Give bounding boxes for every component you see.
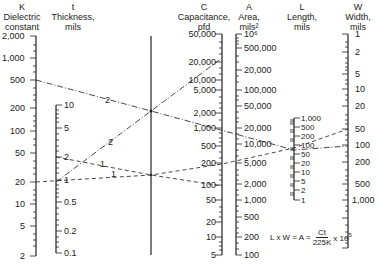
c-tick: 1,000 <box>193 124 216 133</box>
c-tick: 10 <box>206 233 216 242</box>
a-tick: 20,000 <box>244 124 272 133</box>
a-tick: 2,000 <box>244 180 267 189</box>
l-tick: 500 <box>301 123 314 132</box>
w-tick: 1,000 <box>352 196 375 205</box>
formula-denominator: 225K <box>313 238 332 247</box>
k-tick: 5 <box>20 222 25 231</box>
line-label-2b: 2 <box>108 138 113 147</box>
k-tick: 200 <box>10 104 25 113</box>
a-tick: 500,000 <box>244 44 277 53</box>
formula-exponent: 5 <box>348 232 351 238</box>
a-tick: 1,000 <box>244 196 267 205</box>
a-tick: 10⁶ <box>244 30 258 39</box>
l-tick: 1 <box>301 196 305 205</box>
t-tick: 2 <box>64 153 69 162</box>
w-tick: 5 <box>355 70 360 79</box>
k-tick: 10 <box>15 200 25 209</box>
line-label-1b: 1 <box>111 170 116 179</box>
formula-tail: x 105 <box>333 232 351 243</box>
k-tick: 2,000 <box>2 32 25 41</box>
w-tick: 500 <box>355 180 370 189</box>
l-tick: 2 <box>301 186 305 195</box>
line-label-1a: 1 <box>100 160 105 169</box>
k-tick: 500 <box>10 76 25 85</box>
t-tick: 1 <box>64 176 69 185</box>
t-tick: 0.5 <box>64 198 77 207</box>
l-tick: 200 <box>301 132 314 141</box>
w-tick: 50 <box>355 125 365 134</box>
w-tick: 1 <box>355 30 360 39</box>
t-tick: 0.2 <box>64 227 77 236</box>
line-label-2a: 2 <box>105 96 110 105</box>
w-tick: 2 <box>355 48 360 57</box>
k-tick: 1,000 <box>2 54 25 63</box>
c-tick: 5,000 <box>193 86 216 95</box>
t-tick: 10 <box>64 101 74 110</box>
a-tick: 5,000 <box>244 159 267 168</box>
l-tick: 10 <box>301 168 310 177</box>
a-tick: 10,000 <box>244 140 272 149</box>
c-tick: 50,000 <box>188 30 216 39</box>
c-tick: 200 <box>201 159 216 168</box>
c-tick: 20,000 <box>188 58 216 67</box>
c-tick: 2,000 <box>193 109 216 118</box>
nomogram-canvas <box>0 0 379 265</box>
l-tick: 1,000 <box>301 114 321 123</box>
w-tick: 200 <box>355 158 370 167</box>
c-tick: 100 <box>201 181 216 190</box>
c-tick: 50 <box>206 196 216 205</box>
formula-lhs: L x W = A = <box>270 233 311 242</box>
k-tick: 100 <box>10 127 25 136</box>
a-tick: 100 <box>244 251 259 260</box>
l-tick: 5 <box>301 177 305 186</box>
a-tick: 100,000 <box>244 86 277 95</box>
t-tick: 5 <box>64 124 69 133</box>
w-tick: 10 <box>355 85 365 94</box>
k-tick: 2 <box>20 252 25 261</box>
example-line-1b <box>56 157 222 186</box>
c-tick: 5 <box>211 251 216 260</box>
t-tick: 0.1 <box>64 249 77 258</box>
w-tick: 20 <box>355 102 365 111</box>
formula-numerator: Ct <box>316 228 328 238</box>
l-tick: 50 <box>301 150 310 159</box>
k-tick: 50 <box>15 149 25 158</box>
formula: L x W = A = Ct 225K x 105 <box>270 228 352 247</box>
k-tick: 20 <box>15 178 25 187</box>
l-tick: 100 <box>301 141 314 150</box>
w-tick: 100 <box>355 141 370 150</box>
a-tick: 50,000 <box>244 102 272 111</box>
a-tick: 500 <box>244 213 259 222</box>
a-tick: 20,000 <box>244 66 272 75</box>
formula-multiplier: x 10 <box>333 234 348 243</box>
a-tick: 200 <box>244 233 259 242</box>
formula-fraction: Ct 225K <box>313 228 332 247</box>
c-tick: 500 <box>201 142 216 151</box>
c-tick: 20 <box>206 218 216 227</box>
l-tick: 20 <box>301 159 310 168</box>
c-tick: 10,000 <box>188 76 216 85</box>
